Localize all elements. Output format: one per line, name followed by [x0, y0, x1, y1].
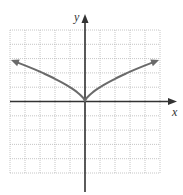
axes: x y	[10, 10, 178, 192]
curve-arrow-icon	[11, 60, 20, 67]
y-axis-label: y	[73, 10, 80, 24]
curve-right-branch	[85, 61, 156, 101]
y-axis-arrow-icon	[82, 14, 89, 23]
x-axis-label: x	[171, 105, 178, 119]
graph: x y	[0, 0, 183, 195]
curve-left-branch	[14, 61, 85, 101]
curve-arrow-icon	[150, 60, 159, 67]
x-axis-arrow-icon	[168, 98, 177, 105]
